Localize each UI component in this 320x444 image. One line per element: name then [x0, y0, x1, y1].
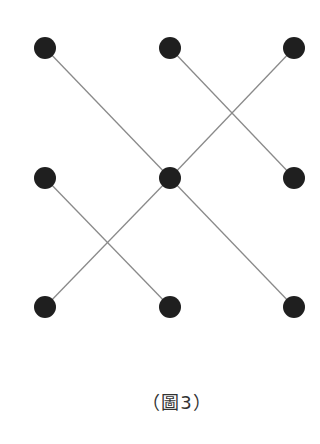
- line-center-to-bottom-right: [170, 178, 294, 307]
- dot-bottom-right: [283, 296, 305, 318]
- line-top-left-to-center: [45, 48, 170, 178]
- dot-top-middle: [159, 37, 181, 59]
- dot-top-right: [283, 37, 305, 59]
- dot-top-left: [34, 37, 56, 59]
- dot-middle-left: [34, 167, 56, 189]
- dot-center: [159, 167, 181, 189]
- dot-grid-diagram: [0, 0, 320, 380]
- figure-caption: （圖3）: [0, 388, 320, 414]
- dot-bottom-left: [34, 296, 56, 318]
- dot-middle-right: [283, 167, 305, 189]
- dot-bottom-middle: [159, 296, 181, 318]
